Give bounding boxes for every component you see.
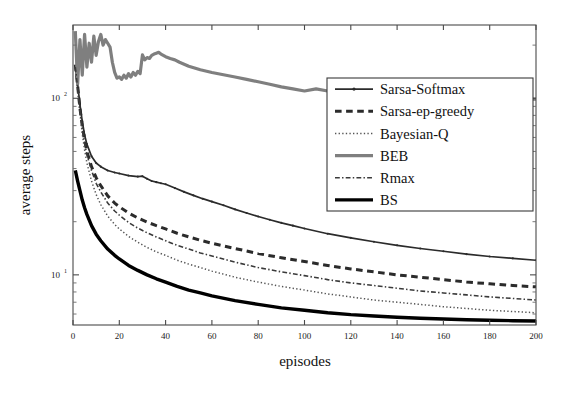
series-marker (95, 162, 97, 164)
x-tick-label: 140 (390, 331, 404, 341)
y-tick-label: 10 (51, 93, 61, 103)
x-tick-label: 20 (115, 331, 125, 341)
legend-label-rmax[interactable]: Rmax (380, 170, 415, 186)
series-marker (165, 183, 167, 185)
series-marker (211, 201, 213, 203)
series-marker (128, 175, 130, 177)
legend-label-bayesian-q[interactable]: Bayesian-Q (380, 126, 449, 142)
series-marker (107, 169, 109, 171)
x-tick-label: 80 (254, 331, 264, 341)
legend-label-bs[interactable]: BS (380, 192, 398, 208)
x-tick-label: 0 (71, 331, 76, 341)
series-marker (137, 176, 139, 178)
series-marker (114, 171, 116, 173)
series-marker (246, 212, 248, 214)
legend-box[interactable] (327, 78, 533, 211)
series-marker (466, 253, 468, 255)
legend-label-sarsa-ep-greedy[interactable]: Sarsa-ep-greedy (380, 103, 475, 119)
series-marker (192, 194, 194, 196)
series-marker (174, 187, 176, 189)
y-tick-exponent: 1 (64, 268, 67, 274)
series-marker (442, 250, 444, 252)
y-axis-label: average steps (17, 135, 33, 216)
series-marker (269, 219, 271, 221)
series-marker (118, 172, 120, 174)
x-tick-label: 180 (483, 331, 497, 341)
series-marker (90, 155, 92, 157)
series-marker (257, 215, 259, 217)
series-marker (183, 191, 185, 193)
series-marker (160, 182, 162, 184)
series-marker (303, 227, 305, 229)
chart-figure: 020406080100120140160180200101102 Sarsa-… (0, 0, 580, 393)
legend-key-sarsa-softmax-marker (352, 87, 355, 90)
series-marker (151, 180, 153, 182)
series-marker (327, 233, 329, 235)
series-marker (280, 222, 282, 224)
series-marker (234, 208, 236, 210)
series-marker (512, 257, 514, 259)
series-marker (155, 181, 157, 183)
x-tick-label: 60 (207, 331, 217, 341)
series-marker (222, 204, 224, 206)
y-tick-exponent: 2 (64, 91, 67, 97)
series-marker (146, 178, 148, 180)
series-marker (373, 241, 375, 243)
x-axis-label: episodes (279, 353, 331, 369)
series-marker (141, 175, 143, 177)
x-tick-label: 160 (437, 331, 451, 341)
series-marker (396, 244, 398, 246)
x-tick-label: 100 (298, 331, 312, 341)
series-marker (419, 247, 421, 249)
series-marker (292, 225, 294, 227)
legend-label-beb[interactable]: BEB (380, 148, 408, 164)
y-tick-label: 10 (51, 270, 61, 280)
series-marker (350, 237, 352, 239)
legend-layer[interactable]: Sarsa-SoftmaxSarsa-ep-greedyBayesian-QBE… (327, 78, 533, 211)
series-marker (202, 198, 204, 200)
series-marker (489, 255, 491, 257)
legend-label-sarsa-softmax[interactable]: Sarsa-Softmax (380, 81, 466, 97)
x-tick-label: 120 (344, 331, 358, 341)
x-tick-label: 200 (529, 331, 543, 341)
x-tick-label: 40 (161, 331, 171, 341)
series-marker (100, 166, 102, 168)
